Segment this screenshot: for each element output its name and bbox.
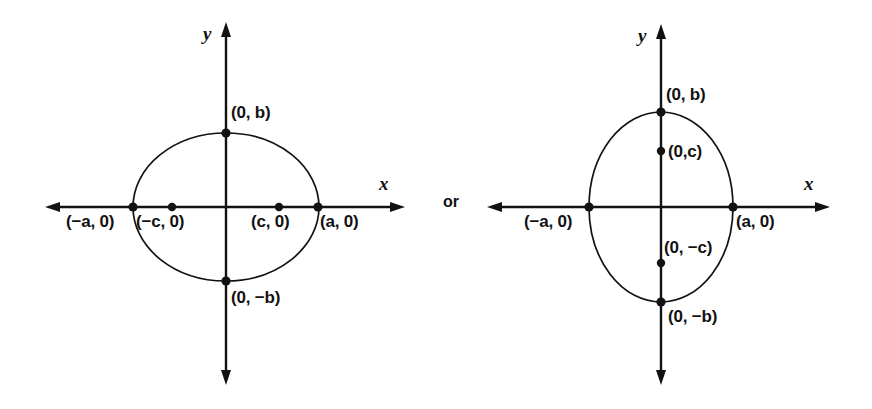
y-axis-arrow-top <box>221 22 231 37</box>
label-focus-left: (−c, 0) <box>136 213 184 230</box>
label-vertex-left: (−a, 0) <box>524 213 572 230</box>
point-focus-top <box>657 147 665 155</box>
point-focus-left <box>168 203 176 211</box>
ellipse-figure: x y (0, b) (−a, 0) (−c, 0) (c, 0) (a, 0)… <box>0 0 872 409</box>
label-vertex-bottom: (0, −b) <box>668 308 717 325</box>
point-vertex-right <box>728 202 737 211</box>
label-focus-right: (c, 0) <box>251 213 289 230</box>
point-vertex-left <box>128 202 137 211</box>
right-diagram-canvas <box>436 0 872 409</box>
point-vertex-bottom <box>221 276 230 285</box>
point-vertex-right <box>313 202 322 211</box>
x-axis-label: x <box>379 174 389 193</box>
diagram-horizontal-major-axis: x y (0, b) (−a, 0) (−c, 0) (c, 0) (a, 0)… <box>0 0 436 409</box>
y-axis-label: y <box>203 24 211 43</box>
label-vertex-top: (0, b) <box>231 104 270 121</box>
point-vertex-left <box>584 202 593 211</box>
label-vertex-bottom: (0, −b) <box>231 289 280 306</box>
x-axis-arrow-left <box>487 202 502 212</box>
x-axis-arrow-left <box>45 202 60 212</box>
label-focus-bottom: (0, −c) <box>664 239 712 256</box>
label-vertex-left: (−a, 0) <box>66 213 114 230</box>
x-axis <box>487 202 830 212</box>
y-axis <box>656 24 666 385</box>
y-axis-label: y <box>638 26 646 45</box>
y-axis-arrow-bottom <box>221 370 231 385</box>
y-axis <box>221 22 231 385</box>
y-axis-arrow-bottom <box>656 370 666 385</box>
diagram-vertical-major-axis: x y (0, b) (0,c) (−a, 0) (a, 0) (0, −c) … <box>436 0 872 409</box>
point-vertex-top <box>221 128 230 137</box>
point-vertex-top <box>656 107 665 116</box>
label-vertex-right: (a, 0) <box>736 213 774 230</box>
left-diagram-canvas <box>0 0 436 409</box>
label-vertex-right: (a, 0) <box>320 213 358 230</box>
y-axis-arrow-top <box>656 24 666 39</box>
label-focus-top: (0,c) <box>668 143 702 160</box>
label-vertex-top: (0, b) <box>666 86 705 103</box>
x-axis-arrow-right <box>815 202 830 212</box>
x-axis-arrow-right <box>390 202 405 212</box>
point-focus-bottom <box>657 259 665 267</box>
x-axis-label: x <box>804 174 814 193</box>
point-vertex-bottom <box>656 297 665 306</box>
point-focus-right <box>275 203 283 211</box>
